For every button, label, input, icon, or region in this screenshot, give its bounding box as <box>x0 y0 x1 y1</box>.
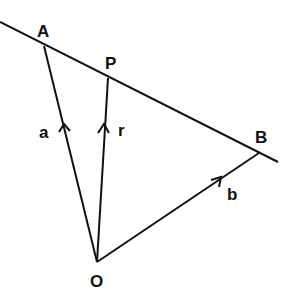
label-vector-a: a <box>39 123 49 142</box>
label-point-o: O <box>90 272 103 291</box>
arrow-r-icon <box>98 124 109 133</box>
vector-r-line <box>97 78 108 262</box>
label-vector-b: b <box>227 185 237 204</box>
vector-diagram: A P B O a r b <box>0 0 281 298</box>
label-point-p: P <box>105 54 116 73</box>
vector-a-line <box>44 46 97 262</box>
label-point-a: A <box>37 22 49 41</box>
label-vector-r: r <box>118 121 125 140</box>
label-point-b: B <box>255 128 267 147</box>
vector-b-line <box>97 153 259 262</box>
